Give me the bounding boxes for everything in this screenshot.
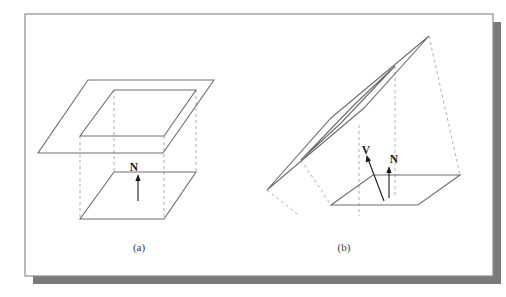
panel-b-caption: (b) xyxy=(338,241,351,254)
panel-a-caption: (a) xyxy=(133,241,146,254)
figure-canvas: N (a) V xyxy=(0,0,506,297)
view-vector-label-b: V xyxy=(362,144,371,156)
normal-vector-label-a: N xyxy=(130,161,139,173)
figure-frame xyxy=(25,14,493,276)
normal-vector-label-b: N xyxy=(390,153,399,165)
figure-stage: N (a) V xyxy=(0,0,506,297)
